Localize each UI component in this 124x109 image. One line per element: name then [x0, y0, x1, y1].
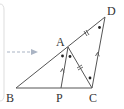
segment-AP [61, 47, 68, 88]
label-D: D [107, 4, 116, 18]
dashed-arrow-icon [7, 49, 38, 55]
frame-bracket [0, 4, 4, 101]
equal-length-marks [77, 30, 89, 70]
label-C: C [89, 91, 97, 105]
label-P: P [56, 91, 63, 105]
label-A: A [56, 35, 65, 49]
segment-AC [68, 47, 92, 88]
geometry-diagram: A B C D P [0, 0, 124, 109]
label-B: B [6, 91, 14, 105]
